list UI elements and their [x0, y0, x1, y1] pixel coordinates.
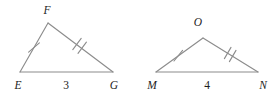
- tick-mark-double-FG-a: [73, 38, 81, 49]
- tick-mark-double-ON-b: [229, 50, 236, 61]
- vertex-label-M: M: [146, 79, 158, 91]
- tick-mark-double-FG-b: [78, 42, 86, 53]
- geometry-canvas: E F G 3 M O N 4: [0, 0, 280, 97]
- tick-mark-double-ON-a: [224, 47, 231, 58]
- vertex-label-E: E: [13, 79, 21, 91]
- vertex-label-G: G: [110, 79, 119, 91]
- tick-mark-single-MO: [174, 50, 183, 61]
- base-length-label-EG: 3: [63, 79, 69, 91]
- geometry-figure: E F G 3 M O N 4: [0, 0, 280, 97]
- vertex-label-F: F: [42, 4, 51, 16]
- triangle-EFG: E F G 3: [13, 4, 118, 91]
- base-length-label-MN: 4: [204, 79, 210, 91]
- vertex-label-N: N: [258, 79, 268, 91]
- tick-mark-single-EF: [29, 43, 40, 52]
- side-FG: [48, 23, 113, 72]
- vertex-label-O: O: [194, 16, 203, 28]
- triangle-MON: M O N 4: [146, 16, 268, 91]
- side-ON: [203, 38, 258, 72]
